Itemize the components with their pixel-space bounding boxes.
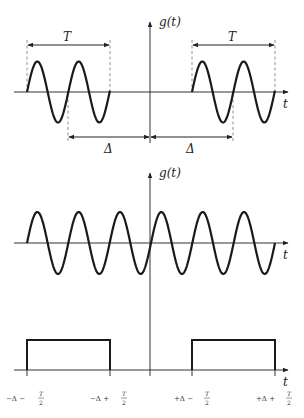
diagram-canvas: g(t) t T T Δ Δ g(t) t [0,0,304,418]
svg-text:T: T [205,390,210,397]
middle-y-axis-label: g(t) [159,166,181,180]
svg-text:+Δ −: +Δ − [174,395,193,403]
svg-text:−Δ +: −Δ + [90,395,109,403]
svg-text:2: 2 [39,399,43,406]
tick-label-2: −Δ + T 2 [90,390,127,406]
right-width-label: T [228,30,237,44]
svg-text:+Δ +: +Δ + [256,395,275,403]
top-panel: g(t) t T T Δ Δ [14,15,288,156]
svg-text:2: 2 [287,399,291,406]
right-rect-window [192,340,275,370]
bottom-ticks [27,370,275,376]
right-offset-label: Δ [185,142,195,156]
middle-x-axis-label: t [283,248,288,262]
tick-label-1: −Δ − T 2 [6,390,44,406]
bottom-x-axis-label: t [283,375,288,389]
top-y-axis-label: g(t) [159,15,181,29]
bottom-panel: t −Δ − T 2 −Δ + T 2 +Δ − T 2 [6,340,292,406]
svg-text:−Δ −: −Δ − [6,395,25,403]
svg-text:T: T [122,390,127,397]
tick-label-4: +Δ + T 2 [256,390,292,406]
left-width-label: T [63,30,72,44]
middle-panel: g(t) t [14,166,288,376]
svg-text:2: 2 [122,399,126,406]
top-x-axis-label: t [283,97,288,111]
left-rect-window [27,340,110,370]
svg-text:T: T [287,390,292,397]
svg-text:T: T [39,390,44,397]
tick-label-3: +Δ − T 2 [174,390,210,406]
left-offset-label: Δ [103,142,113,156]
svg-text:2: 2 [205,399,209,406]
